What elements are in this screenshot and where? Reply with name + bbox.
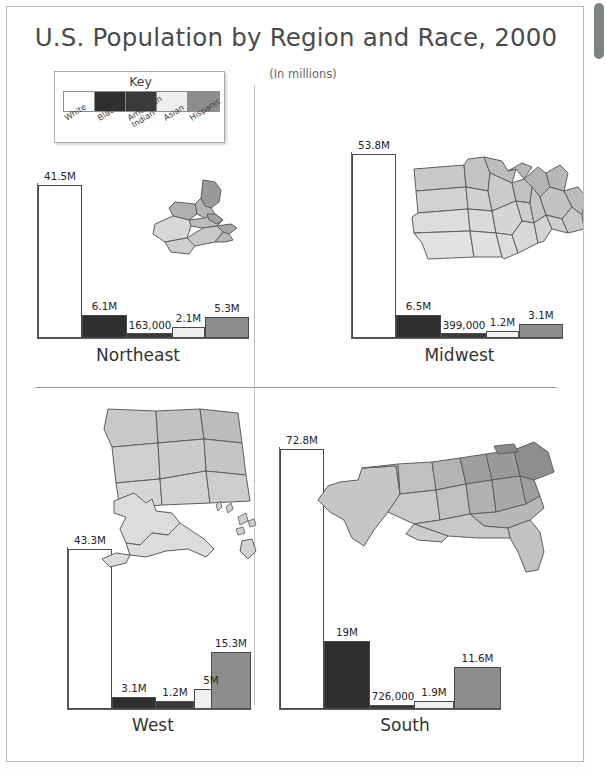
bar-hispanic	[205, 317, 249, 338]
bar-american-indian	[441, 333, 486, 338]
scrollbar-thumb[interactable]	[594, 3, 604, 59]
infographic-page: U.S. Population by Region and Race, 2000…	[0, 0, 606, 770]
west-region-map	[93, 407, 258, 617]
region-title-west: West	[53, 715, 253, 735]
quadrant-midwest: 53.8M 6.5M 399,000 1.2M 3.1M Midwest	[337, 135, 582, 379]
quadrant-west: 43.3M 3.1M 1.2M 5M 15.3M West	[23, 407, 258, 737]
bar-value-hispanic: 11.6M	[454, 652, 501, 664]
region-title-south: South	[305, 715, 505, 735]
bar-value-hispanic: 3.1M	[519, 309, 563, 321]
bar-black	[112, 697, 156, 709]
northeast-region-map	[141, 175, 251, 275]
quadrant-northeast: 41.5M 6.1M 163,000 2.1M 5.3M Northeast	[23, 167, 253, 377]
bar-value-hispanic: 5.3M	[205, 302, 249, 314]
bar-value-asian: 1.9M	[414, 686, 454, 698]
key-title: Key	[55, 74, 226, 89]
bar-value-black: 6.1M	[82, 300, 127, 312]
bar-white	[352, 154, 396, 338]
bar-american-indian	[370, 705, 414, 709]
bar-american-indian	[156, 701, 194, 709]
bar-value-white: 41.5M	[38, 170, 82, 182]
bar-hispanic	[519, 324, 563, 338]
infographic-sheet: U.S. Population by Region and Race, 2000…	[6, 6, 584, 762]
key-legend: Key White Black American Indian Asian Hi…	[54, 71, 225, 143]
bar-value-asian: 5M	[194, 674, 228, 686]
chart-axis-x	[279, 709, 501, 710]
bar-american-indian	[127, 333, 172, 338]
bar-asian	[414, 701, 454, 709]
bar-value-black: 19M	[324, 626, 370, 638]
chart-axis-x	[351, 338, 563, 339]
bar-value-asian: 1.2M	[486, 316, 519, 328]
bar-value-white: 53.8M	[352, 139, 396, 151]
chart-axis-x	[67, 709, 251, 710]
units-subtitle: (In millions)	[243, 67, 363, 81]
bar-value-black: 6.5M	[396, 300, 441, 312]
page-title: U.S. Population by Region and Race, 2000	[7, 23, 584, 52]
bar-value-hispanic: 15.3M	[211, 637, 251, 649]
south-region-map	[315, 439, 565, 589]
bar-value-american-indian: 1.2M	[153, 686, 197, 698]
midwest-region-map	[409, 153, 584, 261]
key-label-row: White Black American Indian Asian Hispan…	[63, 112, 225, 142]
vertical-scrollbar[interactable]	[592, 0, 606, 770]
region-title-northeast: Northeast	[23, 345, 253, 365]
quadrant-south: 72.8M 19M 726,000 1.9M 11.6M South	[275, 429, 575, 739]
horizontal-divider	[35, 387, 557, 388]
bar-white	[38, 185, 82, 338]
bar-value-asian: 2.1M	[172, 312, 205, 324]
bar-hispanic	[454, 667, 501, 709]
bar-value-black: 3.1M	[112, 682, 156, 694]
chart-axis-x	[37, 338, 249, 339]
bar-asian	[486, 331, 519, 338]
region-title-midwest: Midwest	[337, 345, 582, 365]
